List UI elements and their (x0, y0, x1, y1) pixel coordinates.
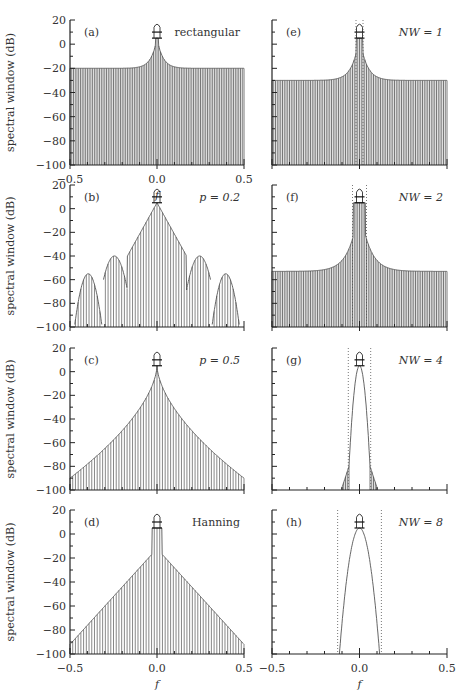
x-tick-label: −0.5 (259, 662, 286, 675)
figure: 200−20−40−60−80−100spectral window (dB)−… (0, 0, 464, 699)
y-tick-label: 20 (52, 179, 66, 192)
y-tick-label: 20 (52, 342, 66, 355)
x-tick-label: 0.5 (438, 662, 456, 675)
panel-c: 200−20−40−60−80−100spectral window (dB)(… (4, 342, 244, 497)
y-tick-label: −60 (43, 437, 66, 450)
y-tick-label: −80 (43, 460, 66, 473)
panel-letter: (c) (84, 354, 99, 367)
panel-letter: (h) (286, 516, 302, 529)
y-tick-label: −60 (43, 274, 66, 287)
y-tick-label: −20 (43, 552, 66, 565)
y-axis-label: spectral window (dB) (4, 33, 17, 152)
panel-label: NW = 8 (398, 516, 443, 529)
y-tick-label: −80 (43, 624, 66, 637)
panel-letter: (d) (84, 516, 100, 529)
y-tick-label: −40 (43, 413, 66, 426)
panel-letter: (a) (84, 26, 99, 39)
y-axis-label: spectral window (dB) (4, 197, 17, 316)
y-axis-label: spectral window (dB) (4, 523, 17, 642)
y-tick-label: −100 (36, 321, 66, 334)
panel-d: 200−20−40−60−80−100spectral window (dB)−… (4, 504, 253, 691)
panel-g: (g)NW = 4 (272, 348, 447, 494)
panel-label: rectangular (175, 26, 241, 39)
panel-label: p = 0.5 (199, 354, 240, 367)
y-tick-label: 0 (59, 203, 66, 216)
x-tick-label: 0.5 (235, 662, 253, 675)
panel-label: NW = 4 (398, 354, 443, 367)
x-axis-label: f (356, 678, 363, 691)
y-tick-label: −100 (36, 159, 66, 172)
y-tick-label: 0 (59, 38, 66, 51)
x-tick-label: 0.0 (351, 662, 369, 675)
y-tick-label: −100 (36, 648, 66, 661)
panel-letter: (e) (286, 26, 301, 39)
y-tick-label: 20 (52, 14, 66, 27)
y-axis-label: spectral window (dB) (4, 360, 17, 479)
x-tick-label: −0.5 (57, 662, 84, 675)
panel-e: (e)NW = 1 (272, 20, 447, 169)
y-tick-label: −60 (43, 600, 66, 613)
y-tick-label: −100 (36, 484, 66, 497)
y-tick-label: −60 (43, 111, 66, 124)
y-tick-label: 0 (59, 528, 66, 541)
y-tick-label: −20 (43, 389, 66, 402)
panel-letter: (b) (84, 191, 100, 204)
y-tick-label: −40 (43, 87, 66, 100)
x-tick-label: 0.5 (235, 173, 253, 186)
panel-letter: (f) (286, 191, 299, 204)
y-tick-label: −40 (43, 250, 66, 263)
panel-label: p = 0.2 (199, 191, 240, 204)
y-tick-label: 0 (59, 366, 66, 379)
panel-label: Hanning (192, 516, 240, 529)
panel-f: (f)NW = 2 (272, 185, 447, 331)
x-tick-label: 0.0 (148, 173, 166, 186)
panel-b: 200−20−40−60−80−100spectral window (dB)(… (4, 179, 244, 334)
panel-a: 200−20−40−60−80−100spectral window (dB)−… (4, 14, 253, 202)
panel-letter: (g) (286, 354, 302, 367)
x-tick-label: 0.0 (148, 662, 166, 675)
y-tick-label: −40 (43, 576, 66, 589)
y-tick-label: 20 (52, 504, 66, 517)
y-tick-label: −80 (43, 297, 66, 310)
panel-label: NW = 1 (398, 26, 443, 39)
y-tick-label: −80 (43, 135, 66, 148)
panel-label: NW = 2 (398, 191, 443, 204)
y-tick-label: −20 (43, 62, 66, 75)
y-tick-label: −20 (43, 226, 66, 239)
panel-h: −0.50.00.5f(h)NW = 8 (259, 510, 456, 691)
x-axis-label: f (154, 678, 161, 691)
